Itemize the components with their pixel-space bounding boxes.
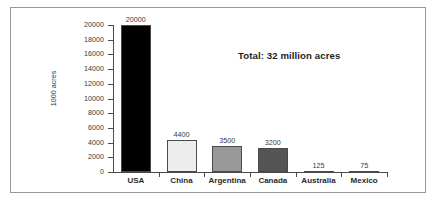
- chart-screenshot: 1000 acres 20000180001600014000120001000…: [0, 0, 438, 207]
- bar-value-label: 75: [339, 162, 389, 169]
- bar-argentina[interactable]: [212, 146, 242, 172]
- plot-area: 2000044003500320012575: [113, 25, 387, 172]
- y-tick-label: 16000: [58, 50, 104, 57]
- x-label-australia: Australia: [296, 173, 342, 188]
- x-tick-mark: [250, 173, 251, 177]
- y-tick-label: 0: [58, 168, 104, 175]
- x-label-canada: Canada: [250, 173, 296, 188]
- bar-value-label: 3500: [202, 137, 252, 144]
- total-annotation: Total: 32 million acres: [238, 50, 340, 61]
- x-label-china: China: [159, 173, 205, 188]
- y-tick-label: 12000: [58, 80, 104, 87]
- x-axis-labels: USAChinaArgentinaCanadaAustraliaMexico: [113, 173, 388, 188]
- bar-usa[interactable]: [121, 25, 151, 172]
- y-tick-label: 14000: [58, 65, 104, 72]
- x-tick-mark: [387, 173, 388, 177]
- x-label-usa: USA: [113, 173, 159, 188]
- bar-value-label: 3200: [248, 139, 298, 146]
- y-tick-label: 2000: [58, 153, 104, 160]
- y-tick-label: 20000: [58, 21, 104, 28]
- y-tick-label: 18000: [58, 36, 104, 43]
- bar-value-label: 125: [294, 162, 344, 169]
- bar-value-label: 4400: [157, 131, 207, 138]
- bar-canada[interactable]: [258, 148, 288, 172]
- y-tick-label: 4000: [58, 139, 104, 146]
- x-label-argentina: Argentina: [204, 173, 250, 188]
- bar-china[interactable]: [167, 140, 197, 172]
- x-tick-mark: [204, 173, 205, 177]
- x-tick-mark: [159, 173, 160, 177]
- y-tick-label: 6000: [58, 124, 104, 131]
- y-tick-label: 10000: [58, 95, 104, 102]
- y-tick-label: 8000: [58, 109, 104, 116]
- x-tick-mark: [296, 173, 297, 177]
- x-tick-mark: [341, 173, 342, 177]
- x-label-mexico: Mexico: [341, 173, 387, 188]
- bar-value-label: 20000: [111, 16, 161, 23]
